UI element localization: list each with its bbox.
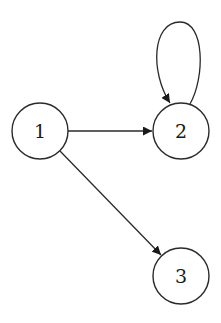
node-1[interactable]: 1	[12, 103, 68, 159]
graph-canvas: 1 2 3	[0, 0, 221, 323]
node-2[interactable]: 2	[153, 103, 209, 159]
edge-2-self-loop	[157, 22, 201, 104]
edge-1-to-3	[60, 151, 161, 255]
node-3[interactable]: 3	[153, 248, 209, 304]
graph-svg: 1 2 3	[0, 0, 221, 323]
node-1-label: 1	[34, 120, 46, 142]
node-2-label: 2	[175, 120, 187, 142]
node-3-label: 3	[175, 265, 187, 287]
